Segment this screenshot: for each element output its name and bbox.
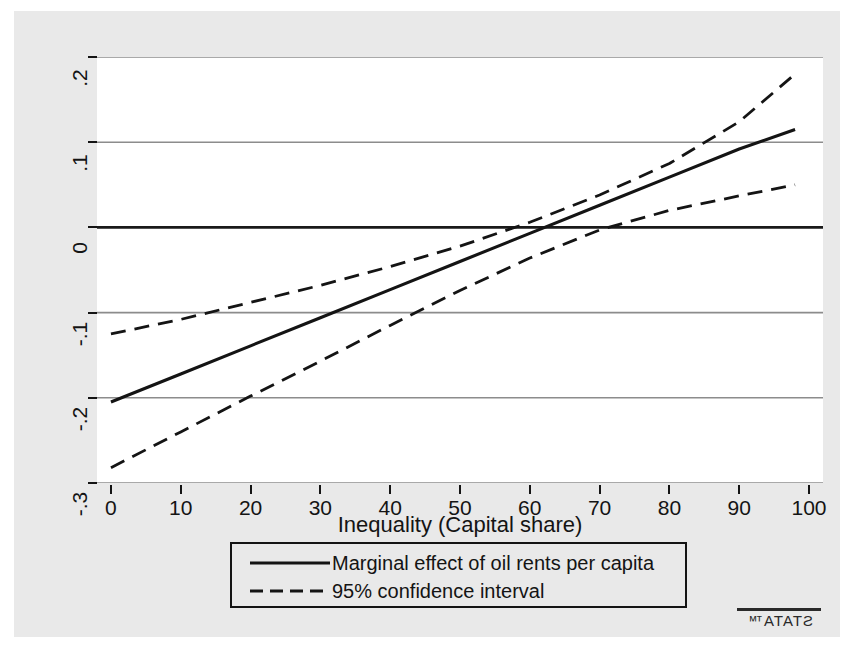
- legend-label-confidence-interval: 95% confidence interval: [332, 580, 544, 603]
- legend-label-marginal-effect: Marginal effect of oil rents per capita: [332, 552, 654, 575]
- dashed-line-swatch-icon: [249, 585, 331, 597]
- series-line-1: [111, 74, 795, 334]
- y-tick-label: .2: [68, 56, 92, 100]
- y-tick-label: .1: [68, 141, 92, 185]
- x-tick-mark: [110, 485, 112, 494]
- chart-page: .2.10-.1-.2-.3 0102030405060708090100 In…: [0, 0, 853, 650]
- x-tick-mark: [738, 485, 740, 494]
- x-tick-mark: [319, 485, 321, 494]
- x-tick-mark: [459, 485, 461, 494]
- stata-logo-text: STATA™: [747, 612, 813, 629]
- x-tick-mark: [599, 485, 601, 494]
- legend-key-solid-line: [248, 557, 332, 569]
- x-tick-mark: [389, 485, 391, 494]
- y-tick-label: -.1: [68, 312, 92, 356]
- x-tick-mark: [808, 485, 810, 494]
- plot-area: [97, 57, 823, 483]
- legend-row-confidence-interval: 95% confidence interval: [232, 576, 685, 606]
- x-tick-mark: [529, 485, 531, 494]
- y-tick-label: -.2: [68, 397, 92, 441]
- solid-line-swatch-icon: [249, 557, 331, 569]
- x-tick-mark: [250, 485, 252, 494]
- x-tick-mark: [180, 485, 182, 494]
- plot-svg: [97, 57, 823, 483]
- x-axis-title: Inequality (Capital share): [97, 512, 823, 538]
- legend: Marginal effect of oil rents per capita …: [230, 542, 687, 608]
- stata-logo-bar: [737, 608, 821, 611]
- data-series-layer: [111, 74, 795, 468]
- x-tick-mark: [668, 485, 670, 494]
- series-line-0: [111, 129, 795, 402]
- stata-graph-region: .2.10-.1-.2-.3 0102030405060708090100 In…: [14, 11, 840, 637]
- y-tick-label: 0: [68, 226, 92, 270]
- stata-logo: STATA™: [737, 608, 823, 630]
- legend-key-dashed-line: [248, 585, 332, 597]
- legend-row-marginal-effect: Marginal effect of oil rents per capita: [232, 548, 685, 578]
